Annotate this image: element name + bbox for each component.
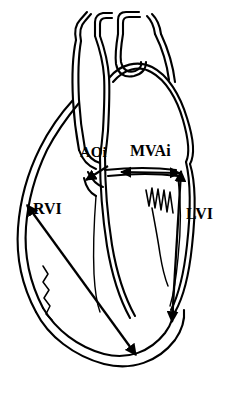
label-mvai: MVAi: [130, 143, 171, 159]
mvai-arrow: [121, 172, 180, 173]
label-aoi: AOi: [80, 145, 107, 160]
label-rvi: RVI: [33, 201, 62, 217]
label-lvi: LVI: [186, 206, 213, 222]
heart-diagram: Heart anatomical line drawing with ventr…: [0, 0, 231, 394]
